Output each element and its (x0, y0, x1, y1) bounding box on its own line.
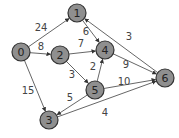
edge-weight-label: 3 (69, 69, 75, 80)
edge-4-to-6 (113, 54, 156, 74)
edge-2-to-4 (69, 51, 96, 54)
node-label: 4 (102, 44, 109, 57)
edge-weight-label: 4 (102, 107, 108, 118)
edge-weight-label: 24 (35, 22, 48, 33)
node-6: 6 (156, 69, 174, 87)
edge-weight-label: 9 (123, 59, 129, 70)
edge-labels-layer: 248156732591043 (22, 22, 133, 118)
directed-graph: 248156732591043 0123456 (0, 0, 179, 138)
node-4: 4 (96, 41, 114, 59)
edge-0-to-2 (30, 53, 51, 55)
edge-weight-label: 5 (67, 92, 73, 103)
node-label: 2 (57, 49, 64, 62)
edge-weight-label: 15 (22, 85, 35, 96)
node-label: 6 (162, 72, 169, 85)
node-3: 3 (40, 111, 58, 129)
node-label: 1 (74, 7, 81, 20)
node-label: 3 (46, 114, 53, 127)
node-2: 2 (51, 46, 69, 64)
node-1: 1 (68, 4, 86, 22)
node-label: 0 (18, 46, 25, 59)
edge-weight-label: 7 (78, 38, 84, 49)
edge-5-to-4 (97, 59, 103, 81)
edge-weight-label: 3 (126, 31, 132, 42)
edge-weight-label: 2 (90, 61, 96, 72)
node-label: 5 (92, 84, 99, 97)
edge-weight-label: 10 (118, 76, 131, 87)
node-0: 0 (12, 43, 30, 61)
node-5: 5 (86, 81, 104, 99)
edge-weight-label: 6 (83, 26, 89, 37)
edge-weight-label: 8 (38, 41, 44, 52)
